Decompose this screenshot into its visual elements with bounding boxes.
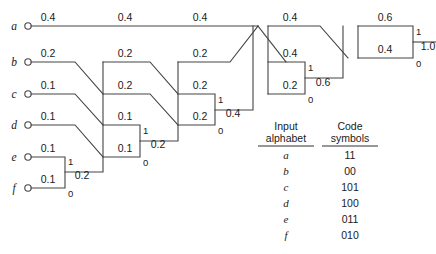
prob-c5r2: 0.4 xyxy=(378,43,393,55)
table-cell-code: 010 xyxy=(341,229,359,241)
source-node-c xyxy=(25,91,31,97)
prob-c1r1: 0.4 xyxy=(41,11,56,23)
prob-c1-sum: 0.2 xyxy=(75,169,90,181)
bit-c2-one: 1 xyxy=(143,125,148,136)
prob-c3-sum: 0.4 xyxy=(226,107,241,119)
table-row: e 011 xyxy=(284,213,359,225)
table-cell-symbol: b xyxy=(283,165,289,177)
source-symbol-c: c xyxy=(11,88,16,100)
table-row: a 11 xyxy=(283,149,355,161)
source-node-a xyxy=(25,23,31,29)
bit-c4-one: 1 xyxy=(308,62,313,73)
prob-c4r3: 0.2 xyxy=(283,79,298,91)
prob-c1r3: 0.1 xyxy=(41,79,56,91)
prob-c1r2: 0.2 xyxy=(41,47,56,59)
prob-c3r2: 0.2 xyxy=(193,47,208,59)
source-symbol-b: b xyxy=(11,56,17,68)
table-header-input-line1: Input xyxy=(274,120,297,132)
source-node-b xyxy=(25,59,31,65)
table-cell-symbol: d xyxy=(283,197,289,209)
wire-c4r1-reorder xyxy=(268,26,348,58)
table-cell-symbol: f xyxy=(284,229,289,241)
prob-root-total: 1.0 xyxy=(421,40,436,52)
bit-c1-zero: 0 xyxy=(68,188,73,199)
huffman-diagram-page: a b c d e f 0.4 0.2 0.1 0.1 0.1 0.1 1 0 xyxy=(0,0,436,254)
source-symbol-f: f xyxy=(12,182,17,195)
prob-c2-sum: 0.2 xyxy=(151,138,166,150)
prob-c1r4: 0.1 xyxy=(41,110,56,122)
bit-c1-one: 1 xyxy=(68,156,73,167)
bit-c2-zero: 0 xyxy=(143,157,148,168)
table-row: b 00 xyxy=(283,165,356,177)
table-header-input-line2: alphabet xyxy=(266,132,306,144)
source-node-e xyxy=(25,154,31,160)
source-node-f xyxy=(25,185,31,191)
wire-c2r2-reorder xyxy=(103,62,178,94)
prob-c2r4: 0.1 xyxy=(118,110,133,122)
table-cell-code: 100 xyxy=(341,197,359,209)
bit-c3-zero: 0 xyxy=(218,125,223,136)
prob-c1r5: 0.1 xyxy=(41,142,56,154)
prob-c2r5: 0.1 xyxy=(118,142,133,154)
source-symbol-e: e xyxy=(11,151,16,163)
wire-c3r2-up xyxy=(178,26,258,62)
prob-c4-sum: 0.6 xyxy=(316,76,331,88)
wire-c2r3-reorder xyxy=(103,94,178,125)
table-cell-code: 00 xyxy=(344,165,356,177)
prob-c5r1: 0.6 xyxy=(378,11,393,23)
bit-c3-one: 1 xyxy=(218,94,223,105)
prob-c4r2: 0.4 xyxy=(283,47,298,59)
prob-c3r1: 0.4 xyxy=(193,11,208,23)
huffman-tree-diagram: a b c d e f 0.4 0.2 0.1 0.1 0.1 0.1 1 0 xyxy=(0,0,436,254)
table-cell-symbol: c xyxy=(284,181,289,193)
table-cell-code: 11 xyxy=(345,149,356,161)
prob-c3r3: 0.2 xyxy=(193,79,208,91)
prob-c2r2: 0.2 xyxy=(118,47,133,59)
bit-c5-one: 1 xyxy=(416,26,421,37)
prob-c2r1: 0.4 xyxy=(118,11,133,23)
source-symbol-d: d xyxy=(11,119,17,131)
table-cell-symbol: e xyxy=(284,213,289,225)
prob-c3r4: 0.2 xyxy=(193,110,208,122)
prob-c4r1: 0.4 xyxy=(283,11,298,23)
source-node-d xyxy=(25,122,31,128)
table-row: d 100 xyxy=(283,197,359,209)
table-row: f 010 xyxy=(284,229,358,241)
prob-c2r3: 0.2 xyxy=(118,79,133,91)
source-symbol-a: a xyxy=(11,20,17,32)
bit-c5-zero: 0 xyxy=(416,58,421,69)
prob-c1r6: 0.1 xyxy=(41,173,56,185)
table-header-code-line2: symbols xyxy=(331,132,370,144)
table-cell-code: 011 xyxy=(342,213,359,225)
bit-c4-zero: 0 xyxy=(308,94,313,105)
table-header-code-line1: Code xyxy=(337,120,362,132)
table-row: c 101 xyxy=(284,181,359,193)
table-cell-code: 101 xyxy=(341,181,359,193)
table-cell-symbol: a xyxy=(283,149,289,161)
